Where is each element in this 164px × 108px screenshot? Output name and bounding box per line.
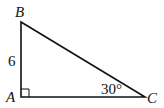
- triangle-abc: [21, 22, 145, 97]
- right-angle-marker: [21, 89, 29, 97]
- vertex-label-a: A: [5, 89, 16, 105]
- triangle-diagram: B A C 6 30°: [0, 0, 164, 108]
- vertex-label-c: C: [147, 90, 158, 106]
- angle-label-c: 30°: [101, 81, 122, 97]
- side-label-ab: 6: [8, 53, 16, 69]
- vertex-label-b: B: [15, 4, 24, 20]
